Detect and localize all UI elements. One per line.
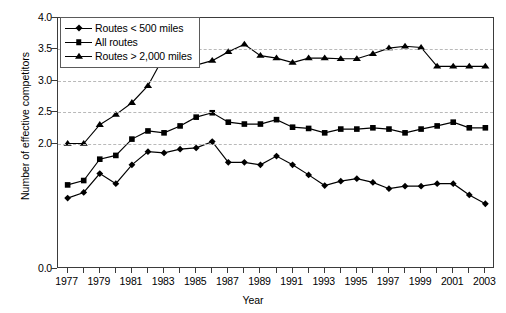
triangle-data-point bbox=[465, 63, 473, 69]
y-axis-tick-mark bbox=[51, 143, 57, 144]
triangle-data-point bbox=[321, 55, 329, 61]
triangle-data-point bbox=[481, 63, 489, 69]
legend-label: Routes > 2,000 miles bbox=[92, 51, 192, 62]
square-data-point bbox=[306, 126, 312, 132]
legend-item-routes-over-2000: Routes > 2,000 miles bbox=[65, 49, 192, 63]
legend-label: All routes bbox=[92, 37, 138, 48]
triangle-data-point bbox=[401, 43, 409, 49]
diamond-data-point bbox=[241, 159, 248, 166]
y-axis-tick-mark bbox=[51, 17, 57, 18]
square-data-point bbox=[145, 128, 151, 134]
diamond-marker-icon bbox=[65, 22, 92, 34]
square-data-point bbox=[418, 126, 424, 132]
triangle-data-point bbox=[208, 57, 216, 63]
square-data-point bbox=[242, 121, 248, 127]
x-axis-tick-mark bbox=[276, 268, 277, 273]
x-axis-tick-mark bbox=[324, 268, 325, 273]
x-axis-title: Year bbox=[0, 294, 506, 306]
triangle-data-point bbox=[240, 41, 248, 47]
diamond-data-point bbox=[161, 150, 168, 157]
diamond-data-point bbox=[64, 195, 71, 202]
legend-item-all-routes: All routes bbox=[65, 35, 192, 49]
y-axis-tick-mark bbox=[51, 48, 57, 49]
square-data-point bbox=[322, 130, 328, 136]
x-axis-tick-mark bbox=[404, 268, 405, 273]
square-data-point bbox=[290, 124, 296, 130]
legend-label: Routes < 500 miles bbox=[92, 23, 183, 34]
x-axis-tick-label: 2003 bbox=[462, 276, 506, 287]
x-axis-tick-mark bbox=[468, 268, 469, 273]
y-axis-tick-mark bbox=[51, 111, 57, 112]
y-axis-tick-mark bbox=[51, 80, 57, 81]
x-axis-tick-mark bbox=[452, 268, 453, 273]
square-data-point bbox=[161, 130, 167, 136]
series-square bbox=[65, 110, 488, 188]
triangle-data-point bbox=[305, 55, 313, 61]
square-marker-icon bbox=[65, 36, 92, 48]
square-data-point bbox=[338, 126, 344, 132]
square-data-point bbox=[226, 119, 232, 125]
y-axis-tick-mark bbox=[51, 268, 57, 269]
x-axis-tick-mark bbox=[372, 268, 373, 273]
square-data-point bbox=[258, 121, 264, 127]
square-data-point bbox=[434, 123, 440, 129]
diamond-data-point bbox=[482, 200, 489, 207]
diamond-data-point bbox=[434, 180, 441, 187]
square-data-point bbox=[450, 119, 456, 125]
x-axis-tick-mark bbox=[131, 268, 132, 273]
chart-legend: Routes < 500 miles All routes Routes > 2… bbox=[60, 17, 200, 68]
x-axis-tick-mark bbox=[163, 268, 164, 273]
x-axis-tick-mark bbox=[259, 268, 260, 273]
diamond-data-point bbox=[289, 161, 296, 168]
gridline bbox=[58, 112, 493, 113]
square-data-point bbox=[81, 178, 87, 184]
square-data-point bbox=[354, 126, 360, 132]
square-data-point bbox=[402, 130, 408, 136]
series-line bbox=[68, 142, 486, 204]
x-axis-tick-mark bbox=[67, 268, 68, 273]
x-axis-tick-mark bbox=[115, 268, 116, 273]
square-data-point bbox=[129, 136, 135, 142]
x-axis-tick-mark bbox=[484, 268, 485, 273]
diamond-data-point bbox=[369, 179, 376, 186]
chart-figure: 0.02.02.53.03.54.0 Number of effective c… bbox=[0, 0, 506, 313]
diamond-data-point bbox=[418, 183, 425, 190]
gridline bbox=[58, 81, 493, 82]
y-axis-tick-label: 4.0 bbox=[26, 12, 52, 23]
diamond-data-point bbox=[305, 171, 312, 178]
square-data-point bbox=[97, 156, 103, 162]
y-axis-tick-label: 0.0 bbox=[26, 263, 52, 274]
diamond-data-point bbox=[321, 182, 328, 189]
x-axis-tick-mark bbox=[340, 268, 341, 273]
series-line bbox=[68, 113, 486, 185]
series-diamond bbox=[64, 138, 489, 207]
triangle-data-point bbox=[337, 55, 345, 61]
diamond-data-point bbox=[450, 180, 457, 187]
triangle-marker-icon bbox=[65, 50, 92, 62]
diamond-data-point bbox=[353, 175, 360, 182]
x-axis-tick-mark bbox=[292, 268, 293, 273]
x-axis-tick-mark bbox=[83, 268, 84, 273]
x-axis-tick-mark bbox=[308, 268, 309, 273]
x-axis-tick-mark bbox=[179, 268, 180, 273]
square-data-point bbox=[177, 123, 183, 129]
x-axis-tick-mark bbox=[147, 268, 148, 273]
x-axis-tick-mark bbox=[356, 268, 357, 273]
diamond-data-point bbox=[273, 153, 280, 160]
diamond-data-point bbox=[257, 161, 264, 168]
square-data-point bbox=[65, 182, 71, 188]
square-data-point bbox=[466, 125, 472, 131]
square-data-point bbox=[483, 125, 489, 131]
square-data-point bbox=[274, 117, 280, 123]
x-axis-tick-mark bbox=[420, 268, 421, 273]
diamond-data-point bbox=[466, 192, 473, 199]
x-axis-tick-mark bbox=[227, 268, 228, 273]
x-axis-tick-mark bbox=[243, 268, 244, 273]
diamond-data-point bbox=[386, 185, 393, 192]
y-axis-title: Number of effective competitors bbox=[19, 31, 31, 221]
x-axis-tick-mark bbox=[436, 268, 437, 273]
triangle-data-point bbox=[96, 121, 104, 127]
diamond-data-point bbox=[193, 144, 200, 151]
square-data-point bbox=[193, 114, 199, 120]
triangle-data-point bbox=[256, 52, 264, 58]
